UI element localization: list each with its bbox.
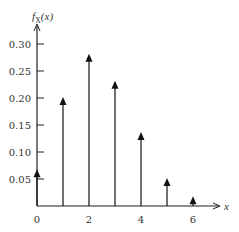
stem-arrow-icon (164, 178, 171, 186)
x-tick-label: 6 (190, 214, 196, 225)
x-axis-label: x (223, 200, 229, 212)
y-axis-label: fX(x) (32, 10, 53, 25)
y-tick-label: 0.25 (9, 66, 31, 77)
stems (34, 54, 197, 206)
y-tick-label: 0.15 (9, 120, 31, 131)
labels: 0.050.100.150.200.250.300246fX(x)x (9, 10, 229, 225)
y-tick-label: 0.10 (9, 147, 31, 158)
x-tick-label: 0 (34, 214, 40, 225)
stem-arrow-icon (112, 81, 119, 89)
stem-arrow-icon (60, 97, 67, 105)
x-tick-label: 2 (86, 214, 92, 225)
y-tick-label: 0.05 (9, 174, 31, 185)
stem-chart: 0.050.100.150.200.250.300246fX(x)x (0, 0, 239, 232)
axes (34, 24, 220, 209)
stem-arrow-icon (34, 169, 41, 177)
stem-arrow-icon (190, 196, 197, 204)
stem-arrow-icon (138, 132, 145, 140)
y-tick-label: 0.30 (9, 39, 31, 50)
y-tick-label: 0.20 (9, 93, 31, 104)
stem-arrow-icon (86, 54, 93, 62)
x-tick-label: 4 (138, 214, 144, 225)
